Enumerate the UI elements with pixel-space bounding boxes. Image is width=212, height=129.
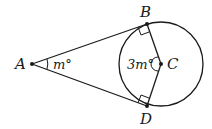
angle-arc-A <box>47 59 48 69</box>
point-A <box>30 62 34 66</box>
angle-label-A: m° <box>53 57 72 72</box>
point-C <box>159 62 163 66</box>
label-A: A <box>13 55 26 73</box>
label-C: C <box>167 55 179 73</box>
geometry-diagram: A B C D m° 3m° <box>0 0 212 129</box>
point-B <box>145 22 149 26</box>
point-D <box>145 104 149 108</box>
label-D: D <box>139 110 152 128</box>
angle-label-C: 3m° <box>127 57 154 72</box>
label-B: B <box>139 3 151 21</box>
